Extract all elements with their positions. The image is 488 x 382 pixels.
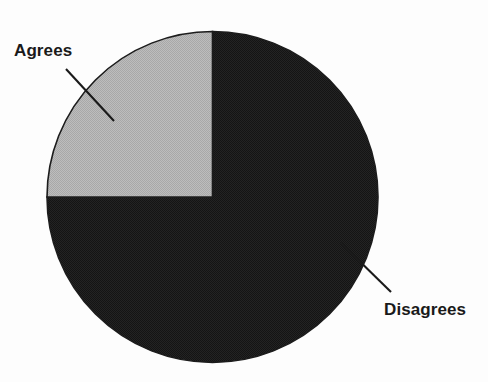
pie-label-agrees: Agrees bbox=[14, 41, 72, 60]
pie-chart-figure: Agrees Disagrees bbox=[0, 0, 488, 382]
pie-label-disagrees: Disagrees bbox=[384, 300, 466, 319]
pie-chart-graphic bbox=[0, 0, 488, 382]
